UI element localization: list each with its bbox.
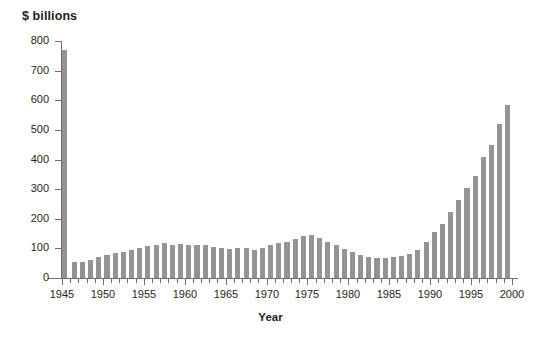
x-tick-mark-major <box>512 279 513 285</box>
bar <box>219 248 224 278</box>
y-tick-mark <box>55 71 61 72</box>
x-tick-mark-major <box>144 279 145 285</box>
x-tick-mark-minor <box>487 279 488 283</box>
x-tick-mark-minor <box>217 279 218 283</box>
bar <box>342 249 347 278</box>
x-tick-mark-minor <box>447 279 448 283</box>
x-tick-mark-major <box>103 279 104 285</box>
x-tick-mark-minor <box>324 279 325 283</box>
x-tick-mark-major <box>348 279 349 285</box>
x-tick-mark-major <box>307 279 308 285</box>
y-axis-title: $ billions <box>22 9 77 23</box>
x-tick-mark-minor <box>299 279 300 283</box>
bar <box>268 245 273 278</box>
x-tick-mark-minor <box>87 279 88 283</box>
x-tick-mark-minor <box>340 279 341 283</box>
y-tick-mark <box>55 41 61 42</box>
x-tick-mark-minor <box>283 279 284 283</box>
x-tick-mark-major <box>267 279 268 285</box>
bar <box>186 245 191 278</box>
x-tick-mark-minor <box>193 279 194 283</box>
y-tick-label: 200 <box>15 213 49 224</box>
x-tick-mark-minor <box>111 279 112 283</box>
bar <box>448 212 453 278</box>
x-tick-mark-minor <box>316 279 317 283</box>
x-tick-mark-minor <box>70 279 71 283</box>
bar <box>489 145 494 278</box>
x-tick-mark-minor <box>242 279 243 283</box>
x-tick-mark-minor <box>160 279 161 283</box>
bar <box>293 239 298 278</box>
bar <box>334 245 339 278</box>
y-tick-mark <box>55 130 61 131</box>
bar <box>424 242 429 278</box>
bar <box>72 262 77 278</box>
bar <box>505 105 510 278</box>
bar <box>358 255 363 278</box>
x-tick-label: 1980 <box>325 288 371 300</box>
y-tick-label: 800 <box>15 35 49 46</box>
y-tick-label: 600 <box>15 94 49 105</box>
bar <box>211 247 216 278</box>
x-tick-mark-major <box>226 279 227 285</box>
x-tick-mark-minor <box>438 279 439 283</box>
bar <box>301 236 306 278</box>
bar <box>129 250 134 278</box>
x-tick-label: 1955 <box>121 288 167 300</box>
x-tick-mark-minor <box>201 279 202 283</box>
bar <box>104 255 109 278</box>
x-tick-mark-minor <box>136 279 137 283</box>
y-tick-label: 500 <box>15 124 49 135</box>
bar <box>383 258 388 278</box>
bar <box>260 248 265 278</box>
x-tick-mark-minor <box>381 279 382 283</box>
x-tick-mark-major <box>185 279 186 285</box>
y-tick-mark <box>55 100 61 101</box>
y-tick-mark <box>55 160 61 161</box>
y-tick-mark <box>55 278 61 279</box>
bar <box>284 242 289 278</box>
bar <box>145 246 150 278</box>
x-tick-mark-minor <box>258 279 259 283</box>
x-tick-mark-minor <box>119 279 120 283</box>
x-tick-mark-minor <box>177 279 178 283</box>
x-tick-label: 1950 <box>80 288 126 300</box>
x-tick-label: 1965 <box>203 288 249 300</box>
x-tick-mark-minor <box>291 279 292 283</box>
bar <box>432 232 437 278</box>
bar <box>481 157 486 278</box>
x-tick-mark-minor <box>127 279 128 283</box>
x-tick-mark-minor <box>95 279 96 283</box>
x-tick-mark-minor <box>397 279 398 283</box>
x-tick-label: 1945 <box>39 288 85 300</box>
x-tick-label: 1995 <box>448 288 494 300</box>
bar <box>440 224 445 278</box>
bar <box>473 176 478 278</box>
x-tick-mark-minor <box>78 279 79 283</box>
x-tick-mark-minor <box>504 279 505 283</box>
bar <box>162 243 167 278</box>
x-tick-label: 1975 <box>284 288 330 300</box>
bar <box>497 124 502 278</box>
bar-chart: $ billions 0100200300400500600700800 194… <box>0 0 541 345</box>
bar <box>374 258 379 278</box>
y-tick-label: 100 <box>15 242 49 253</box>
bar <box>407 254 412 278</box>
bar <box>464 188 469 278</box>
bar <box>178 244 183 278</box>
x-tick-mark-minor <box>422 279 423 283</box>
bar <box>203 245 208 278</box>
bar <box>415 250 420 278</box>
x-tick-mark-major <box>471 279 472 285</box>
x-tick-mark-minor <box>357 279 358 283</box>
y-tick-label: 0 <box>15 272 49 283</box>
x-tick-label: 1960 <box>162 288 208 300</box>
x-tick-mark-minor <box>209 279 210 283</box>
y-tick-label: 300 <box>15 183 49 194</box>
bar <box>113 253 118 278</box>
y-tick-mark <box>55 189 61 190</box>
x-tick-mark-minor <box>414 279 415 283</box>
bar <box>252 250 257 278</box>
bar <box>62 50 67 278</box>
x-tick-mark-minor <box>455 279 456 283</box>
